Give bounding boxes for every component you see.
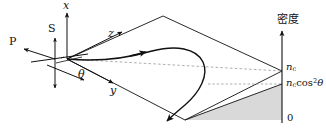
tick-nc-subscript: c	[292, 65, 296, 73]
s-polarization-label: S	[48, 23, 56, 34]
figure-canvas: x z y P S θ 密度 nc nccos2θ 0	[0, 0, 326, 134]
p-polarization-arrow	[24, 49, 55, 59]
ray-trajectory	[67, 48, 205, 121]
tick-label-nc-cos2-theta: nccos2θ	[286, 78, 323, 89]
axis-y	[67, 59, 113, 83]
axis-y-label: y	[110, 85, 116, 96]
tick-nccos-cos: cos	[296, 77, 313, 88]
theta-angle-label: θ	[78, 69, 85, 80]
plane-dashed-diagonal	[67, 59, 282, 71]
tick-label-nc: nc	[286, 62, 296, 73]
axis-z-label: z	[108, 28, 114, 39]
coordinate-axes	[67, 13, 122, 83]
axis-x-label: x	[63, 0, 69, 11]
incident-beam-line	[31, 54, 88, 62]
p-polarization-label: P	[9, 36, 16, 47]
tick-label-zero: 0	[287, 113, 293, 123]
tick-nccos-theta: θ	[317, 77, 323, 88]
density-axis-title: 密度	[277, 14, 299, 25]
